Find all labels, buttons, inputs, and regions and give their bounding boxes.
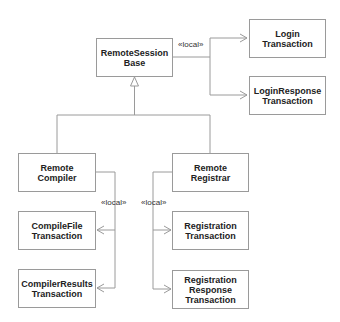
class-name-line: LoginResponse [254,86,322,96]
class-name-line: CompileFile [31,221,82,231]
class-remote-registrar[interactable]: Remote Registrar [172,153,249,192]
class-name-line: Transaction [262,96,313,106]
class-compiler-results-transaction[interactable]: CompilerResults Transaction [18,269,96,308]
class-name-line: Base [124,58,146,68]
stereotype-label-registrar: «local» [141,198,166,207]
class-name-line: Transaction [262,39,313,49]
class-name-line: Transaction [32,289,83,299]
generalization-arrowhead [131,77,139,86]
class-name-line: Registrar [191,173,231,183]
class-name-line: Remote [40,163,73,173]
class-name-line: Remote [194,163,227,173]
class-login-response-transaction[interactable]: LoginResponse Transaction [249,76,326,115]
class-remote-compiler[interactable]: Remote Compiler [18,153,96,192]
stereotype-label-compiler: «local» [101,198,126,207]
class-name-line: Transaction [32,231,83,241]
class-name-line: Response [189,285,232,295]
class-compile-file-transaction[interactable]: CompileFile Transaction [18,211,96,250]
class-name-line: RemoteSession [101,48,169,58]
stereotype-label-base: «local» [178,40,203,49]
class-name-line: Registration [184,221,237,231]
class-name-line: Transaction [185,231,236,241]
class-name-line: Compiler [37,173,76,183]
class-registration-response-transaction[interactable]: Registration Response Transaction [172,270,249,309]
class-login-transaction[interactable]: Login Transaction [249,19,326,58]
class-name-line: Transaction [185,295,236,305]
class-name-line: Login [275,29,300,39]
class-name-line: CompilerResults [21,279,93,289]
class-remote-session-base[interactable]: RemoteSession Base [96,38,173,77]
class-registration-transaction[interactable]: Registration Transaction [172,211,249,250]
class-name-line: Registration [184,275,237,285]
